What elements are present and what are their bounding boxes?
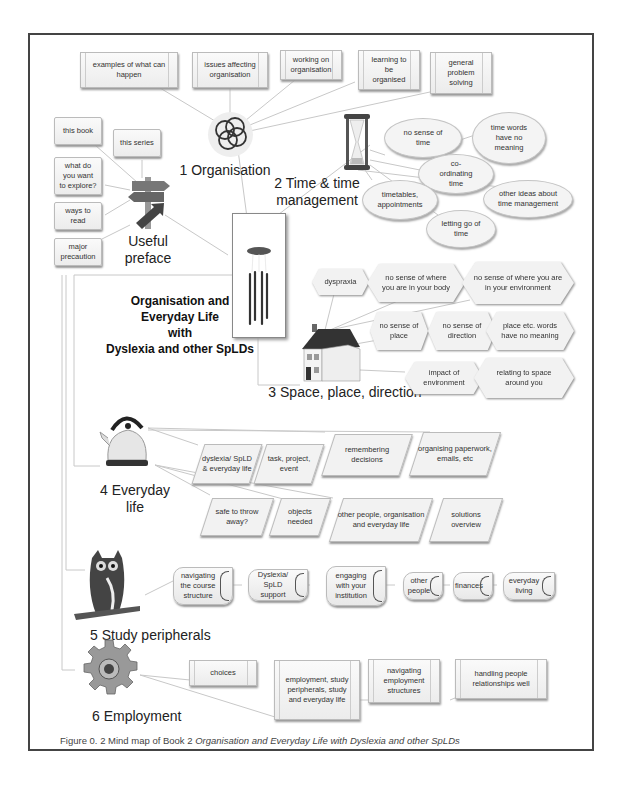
node-letting-go[interactable]: letting go of time xyxy=(426,210,496,248)
node-dyspraxia-wrap: dyspraxia xyxy=(312,269,369,295)
node-handling-relationships[interactable]: handling people relationships well xyxy=(455,659,547,699)
node-employment-study[interactable]: employment, study peripherals, study and… xyxy=(274,660,360,720)
node-place-words[interactable]: place etc. words have no meaning xyxy=(486,312,574,350)
signpost-icon xyxy=(124,175,174,230)
node-text: solutions overview xyxy=(437,510,495,530)
node-no-sense-environment[interactable]: no sense of where you are in your enviro… xyxy=(462,262,574,304)
branch-label-time: 2 Time & time management xyxy=(272,175,362,209)
node-what-do-you[interactable]: what do you want to explore? xyxy=(54,157,102,195)
node-general-problem[interactable]: general problem solving xyxy=(430,52,492,94)
node-relating-wrap: relating to space around you xyxy=(474,358,574,398)
node-navigating-employment[interactable]: navigating employment structures xyxy=(368,659,440,703)
rings-icon xyxy=(208,112,253,157)
node-text: objects needed xyxy=(276,507,324,527)
node-text: other people, organisation and everyday … xyxy=(337,510,425,530)
node-other-ideas-time[interactable]: other ideas about time management xyxy=(483,180,573,218)
wind-chime-icon xyxy=(232,213,286,338)
node-text: task, project, event xyxy=(261,454,317,474)
node-working-on[interactable]: working on organisation xyxy=(280,50,342,80)
node-this-book[interactable]: this book xyxy=(54,117,102,145)
house-icon xyxy=(300,323,362,383)
figure-caption: Figure 0. 2 Mind map of Book 2 Organisat… xyxy=(60,735,560,746)
node-no-sense-place[interactable]: no sense of place xyxy=(370,312,428,350)
node-relating-space[interactable]: relating to space around you xyxy=(474,358,574,398)
node-ways-to-read[interactable]: ways to read xyxy=(54,202,102,230)
node-timetables[interactable]: timetables, appointments xyxy=(362,180,438,220)
node-this-series[interactable]: this series xyxy=(113,129,161,157)
node-choices[interactable]: choices xyxy=(189,660,257,686)
node-text: organising paperwork, emails, etc xyxy=(417,444,493,464)
node-engaging-institution[interactable]: engaging with your institution xyxy=(326,566,386,606)
branch-label-line: 4 Everyday xyxy=(95,482,175,499)
branch-label-line: 2 Time & time xyxy=(272,175,362,192)
node-learning[interactable]: learning to be organised xyxy=(358,50,420,90)
node-major-precaution[interactable]: major precaution xyxy=(54,238,102,266)
node-organising-paperwork[interactable]: organising paperwork, emails, etc xyxy=(409,432,501,476)
branch-label-line: management xyxy=(272,192,362,209)
node-place-wrap: no sense of place xyxy=(370,312,428,350)
node-everyday-living[interactable]: everyday living xyxy=(503,572,555,600)
node-text: remembering decisions xyxy=(329,445,405,465)
hourglass-icon xyxy=(342,114,372,170)
node-impact-environment[interactable]: impact of environment xyxy=(405,362,483,394)
node-text: safe to throw away? xyxy=(207,507,267,527)
node-time-words[interactable]: time words have no meaning xyxy=(472,112,546,164)
node-no-sense-of-time[interactable]: no sense of time xyxy=(384,118,462,158)
node-other-people-org[interactable]: other people, organisation and everyday … xyxy=(329,498,433,542)
central-title-line: Dyslexia and other SpLDs xyxy=(95,341,265,357)
node-no-sense-body[interactable]: no sense of where you are in your body xyxy=(367,264,465,302)
branch-label-preface: Useful preface xyxy=(118,233,178,267)
node-dyslexia-support[interactable]: Dyslexia/ SpLD support xyxy=(248,569,308,601)
kettle-icon xyxy=(98,412,154,468)
owl-icon xyxy=(72,548,142,628)
branch-label-organisation: 1 Organisation xyxy=(175,162,275,179)
node-safe-to-throw[interactable]: safe to throw away? xyxy=(200,498,274,536)
node-remembering[interactable]: remembering decisions xyxy=(321,434,413,476)
branch-label-line: Useful xyxy=(118,233,178,250)
node-other-people[interactable]: other people xyxy=(403,572,443,600)
node-place-words-wrap: place etc. words have no meaning xyxy=(486,312,574,350)
node-finances[interactable]: finances xyxy=(453,572,493,600)
caption-prefix: Figure 0. 2 Mind map of Book 2 xyxy=(60,735,195,746)
node-body-wrap: no sense of where you are in your body xyxy=(367,264,465,302)
node-examples[interactable]: examples of what can happen xyxy=(80,52,178,88)
gear-icon xyxy=(78,638,140,700)
node-dyspraxia[interactable]: dyspraxia xyxy=(312,269,369,295)
node-issues[interactable]: issues affecting organisation xyxy=(192,52,268,88)
branch-label-line: life xyxy=(95,499,175,516)
branch-label-employment: 6 Employment xyxy=(92,708,202,725)
node-env-wrap: no sense of where you are in your enviro… xyxy=(462,262,574,304)
branch-label-everyday: 4 Everyday life xyxy=(95,482,175,516)
node-impact-wrap: impact of environment xyxy=(405,362,483,394)
node-text: dyslexia/ SpLD & everyday life xyxy=(199,454,255,474)
node-navigating-course[interactable]: navigating the course structure xyxy=(173,567,233,605)
branch-label-line: preface xyxy=(118,250,178,267)
caption-book-title: Organisation and Everyday Life with Dysl… xyxy=(195,735,460,746)
